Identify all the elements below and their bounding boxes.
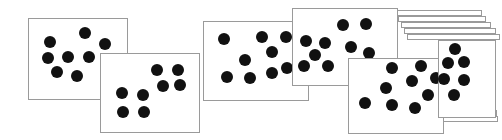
dot-cards-figure: Overlapping cards with scattered black d… — [0, 0, 502, 140]
card-1-label: Card 1 — [29, 19, 30, 20]
card-6[interactable]: Card 6 — [438, 40, 496, 118]
card-4-label: Card 4 — [293, 9, 294, 10]
figure-title: Overlapping cards with scattered black d… — [0, 0, 1, 1]
card-2-label: Card 2 — [101, 54, 102, 55]
card-5[interactable]: Card 5 — [348, 58, 444, 134]
card-6-label: Card 6 — [439, 41, 440, 42]
card-3-label: Card 3 — [204, 22, 205, 23]
card-5-label: Card 5 — [349, 59, 350, 60]
card-2[interactable]: Card 2 — [100, 53, 200, 133]
